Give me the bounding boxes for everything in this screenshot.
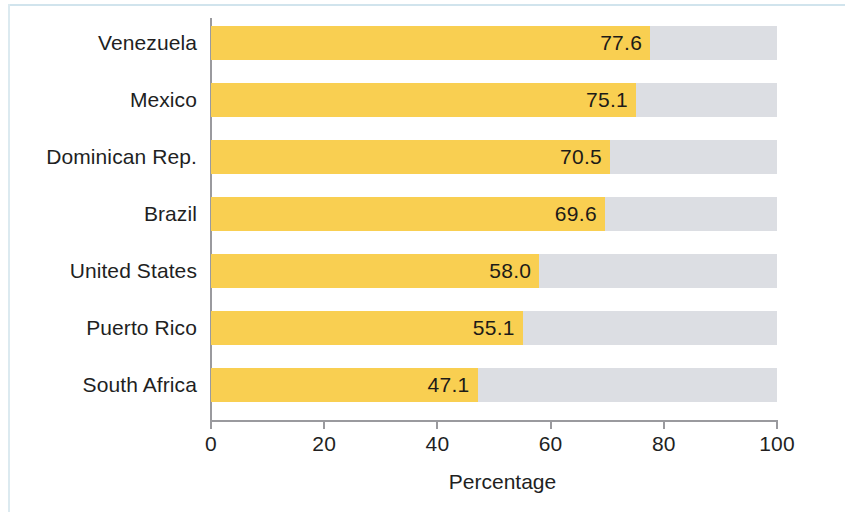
category-label: Dominican Rep. [0,140,197,174]
x-tick-mark [663,420,665,429]
category-label: Venezuela [0,26,197,60]
x-tick-mark [323,420,325,429]
bar-value-label: 77.6 [211,26,650,60]
bar-row: 47.1 [211,368,777,402]
chart-page: 020406080100 Venezuela77.6Mexico75.1Domi… [0,0,845,512]
bar-value-label: 55.1 [211,311,523,345]
bar-row: 55.1 [211,311,777,345]
bar-row: 75.1 [211,83,777,117]
x-axis-line [210,420,778,422]
category-label: Brazil [0,197,197,231]
bar-row: 77.6 [211,26,777,60]
bar-value-label: 69.6 [211,197,605,231]
x-tick-mark [436,420,438,429]
horizontal-bar-chart: 020406080100 Venezuela77.6Mexico75.1Domi… [0,0,845,512]
bar-value-label: 47.1 [211,368,478,402]
bar-row: 58.0 [211,254,777,288]
category-label: Mexico [0,83,197,117]
category-label: South Africa [0,368,197,402]
x-tick-label: 100 [737,432,817,456]
x-tick-mark [210,420,212,429]
x-tick-label: 20 [284,432,364,456]
x-axis-title: Percentage [0,470,845,494]
x-tick-mark [550,420,552,429]
bar-row: 70.5 [211,140,777,174]
x-tick-label: 40 [397,432,477,456]
bar-value-label: 58.0 [211,254,539,288]
bar-row: 69.6 [211,197,777,231]
bar-value-label: 70.5 [211,140,610,174]
category-label: Puerto Rico [0,311,197,345]
x-tick-mark [776,420,778,429]
x-tick-label: 0 [171,432,251,456]
x-axis-title-text: Percentage [449,470,556,493]
x-tick-label: 80 [624,432,704,456]
x-tick-label: 60 [511,432,591,456]
category-label: United States [0,254,197,288]
bar-value-label: 75.1 [211,83,636,117]
